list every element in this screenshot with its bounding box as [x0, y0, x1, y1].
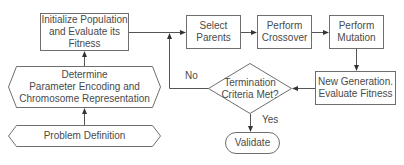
edge-label-yes: Yes: [262, 114, 278, 126]
node-select-label: Select Parents: [186, 15, 241, 49]
node-crossover-label: Perform Crossover: [257, 15, 312, 49]
node-encoding-label: Determine Parameter Encoding and Chromos…: [12, 66, 157, 108]
node-newgen-label: New Generation. Evaluate Fitness: [315, 71, 396, 105]
genetic-algorithm-flowchart: Initialize Population and Evaluate its F…: [0, 0, 404, 165]
node-mutation-label: Perform Mutation: [329, 15, 384, 49]
node-validate-label: Validate: [225, 132, 280, 154]
node-problem-label: Problem Definition: [12, 125, 157, 147]
edge-label-no: No: [185, 70, 198, 82]
node-termination-label: Termination Criteria Met?: [212, 76, 288, 102]
node-init-label: Initialize Population and Evaluate its F…: [40, 13, 129, 51]
